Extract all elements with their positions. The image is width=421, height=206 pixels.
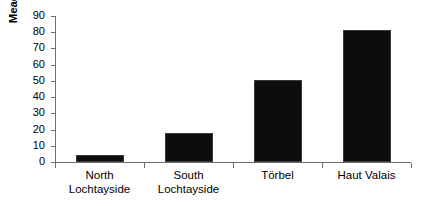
y-axis-tick-label: 60 — [23, 58, 45, 71]
x-axis-label: South Lochtayside — [144, 168, 233, 196]
plot-area: 0102030405060708090 — [55, 16, 411, 162]
x-axis-label: Törbel — [233, 168, 322, 182]
y-axis-tick-label: 40 — [23, 90, 45, 103]
bars-layer — [55, 16, 411, 162]
y-axis-title: Meadow as % of total land — [2, 0, 24, 33]
bar — [343, 30, 391, 162]
x-axis-label: Haut Valais — [322, 168, 411, 182]
y-axis-tick-label: 20 — [23, 123, 45, 136]
y-axis-tick-label: 0 — [23, 155, 45, 168]
y-axis-tick-label: 80 — [23, 25, 45, 38]
x-axis-tick — [411, 163, 412, 168]
y-axis-tick-label: 10 — [23, 139, 45, 152]
bar-chart: Meadow as % of total land 01020304050607… — [0, 0, 421, 206]
x-axis-labels: North LochtaysideSouth LochtaysideTörbel… — [55, 168, 411, 204]
x-axis-label: North Lochtayside — [55, 168, 144, 196]
bar — [254, 80, 302, 162]
bar — [165, 133, 213, 162]
y-axis-tick-label: 90 — [23, 9, 45, 22]
y-axis-tick-label: 30 — [23, 106, 45, 119]
y-axis-tick-label: 70 — [23, 41, 45, 54]
y-axis-tick-label: 50 — [23, 74, 45, 87]
bar — [76, 155, 124, 162]
